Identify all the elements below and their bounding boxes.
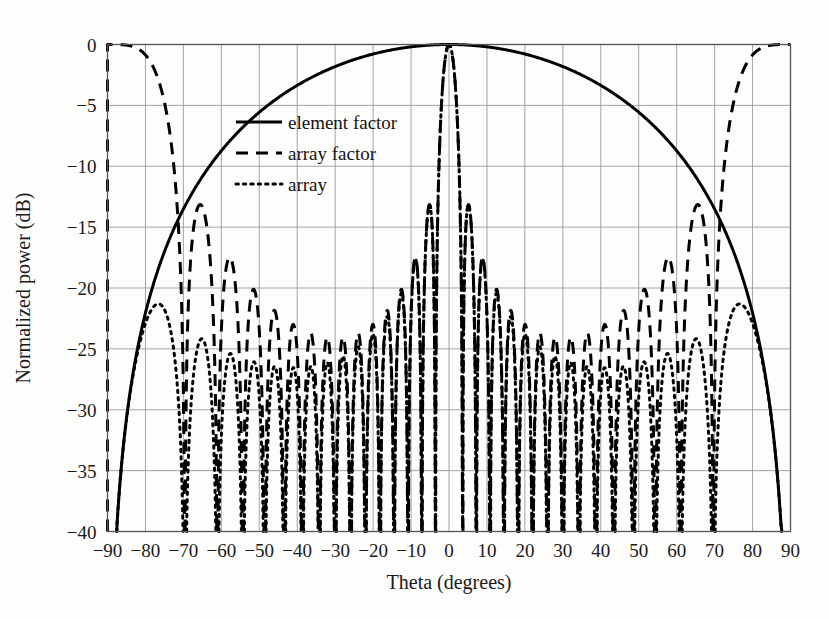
- x-tick-label: −90: [93, 540, 123, 561]
- x-tick-label: −50: [244, 540, 274, 561]
- y-tick-label: −35: [67, 461, 97, 482]
- grid-lines: [108, 45, 791, 532]
- x-tick-label: 90: [781, 540, 800, 561]
- y-tick-label: −10: [67, 156, 97, 177]
- y-axis-tick-labels: 0−5−10−15−20−25−30−35−40: [67, 35, 97, 543]
- chart-figure: −90−80−70−60−50−40−30−20−100102030405060…: [0, 0, 829, 619]
- x-tick-label: −40: [282, 540, 312, 561]
- x-tick-label: −20: [358, 540, 388, 561]
- y-axis-title: Normalized power (dB): [12, 192, 35, 383]
- x-tick-label: −30: [320, 540, 350, 561]
- x-tick-label: 60: [667, 540, 686, 561]
- legend-label: element factor: [288, 112, 398, 133]
- x-tick-label: 40: [591, 540, 610, 561]
- legend-label: array: [288, 174, 328, 195]
- y-tick-label: −5: [76, 95, 96, 116]
- antenna-pattern-plot: −90−80−70−60−50−40−30−20−100102030405060…: [0, 0, 829, 619]
- legend-label: array factor: [288, 143, 377, 164]
- x-tick-label: −70: [169, 540, 199, 561]
- y-tick-label: −20: [67, 278, 97, 299]
- x-tick-label: 0: [444, 540, 454, 561]
- y-tick-label: −25: [67, 339, 97, 360]
- y-tick-label: 0: [87, 35, 97, 56]
- y-tick-label: −40: [67, 522, 97, 543]
- y-tick-label: −15: [67, 217, 97, 238]
- x-axis-tick-labels: −90−80−70−60−50−40−30−20−100102030405060…: [93, 540, 800, 561]
- x-tick-label: −10: [396, 540, 426, 561]
- x-tick-label: 70: [705, 540, 724, 561]
- x-tick-label: 50: [629, 540, 648, 561]
- x-tick-label: −80: [131, 540, 161, 561]
- x-axis-title: Theta (degrees): [387, 571, 512, 594]
- x-tick-label: 20: [515, 540, 534, 561]
- x-tick-label: −60: [206, 540, 236, 561]
- x-tick-label: 10: [477, 540, 496, 561]
- y-tick-label: −30: [67, 400, 97, 421]
- legend: element factorarray factorarray: [236, 112, 398, 195]
- x-tick-label: 30: [553, 540, 572, 561]
- x-tick-label: 80: [743, 540, 762, 561]
